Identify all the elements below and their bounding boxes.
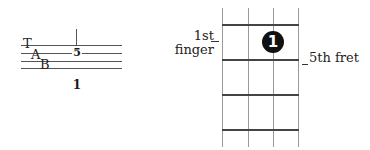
fret-line-3 [222, 94, 299, 96]
fret-line-2 [222, 59, 299, 61]
tab-note-fret-number: 5 [72, 46, 82, 59]
fret-line-4 [222, 129, 299, 131]
first-finger-label-line1: 1st [162, 29, 214, 43]
string-line-1 [222, 8, 223, 147]
fifth-fret-label: 5th fret [309, 51, 359, 65]
beat-number: 1 [71, 78, 83, 92]
tab-staff: T A B 5 1 [0, 0, 140, 150]
finger-dot: 1 [262, 31, 284, 53]
note-stem [76, 29, 77, 46]
fret-line-1 [222, 24, 299, 26]
fifth-fret-leader [302, 64, 308, 65]
first-finger-label: 1st finger [162, 29, 214, 57]
fretboard-diagram: 1 1st finger 5th fret [150, 0, 370, 150]
first-finger-leader [211, 41, 219, 42]
tab-clef-a: A [31, 48, 40, 61]
string-line-2 [248, 8, 249, 147]
staff-line-4 [21, 68, 122, 69]
string-line-3 [273, 8, 274, 147]
string-line-4 [298, 8, 299, 147]
tab-clef-b: B [40, 58, 50, 71]
first-finger-label-line2: finger [162, 43, 214, 57]
